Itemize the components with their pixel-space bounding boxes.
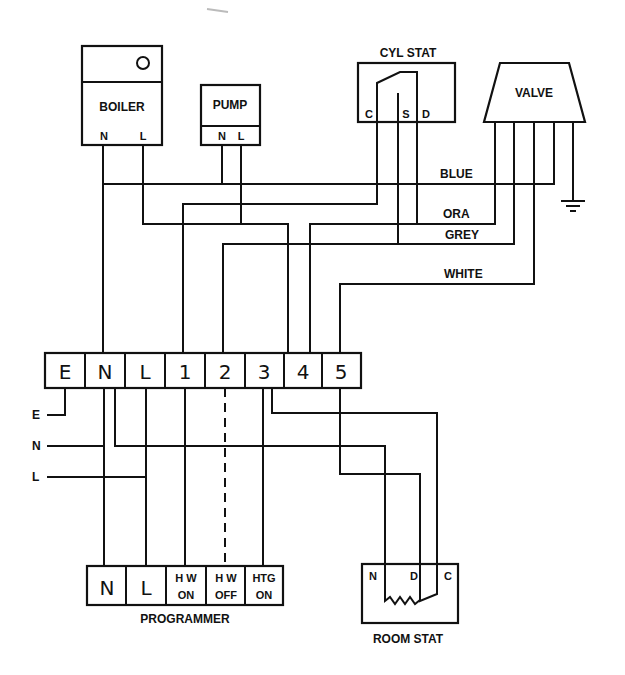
supply-label-e: E <box>32 408 40 422</box>
boiler: BOILER N L <box>82 46 162 145</box>
cyl-stat-terminal-c: C <box>365 108 373 120</box>
terminal-n: N <box>98 360 113 384</box>
programmer-hw-on-line1: H W <box>175 572 197 584</box>
room-stat-label: ROOM STAT <box>373 632 444 646</box>
programmer-terminal-n: N <box>100 576 115 600</box>
cyl-stat-label: CYL STAT <box>380 46 437 60</box>
boiler-terminal-l: L <box>140 130 147 142</box>
terminal-1: 1 <box>179 360 192 384</box>
programmer: N L H W ON H W OFF HTG ON PROGRAMMER <box>87 566 283 626</box>
pump: PUMP N L <box>201 85 260 145</box>
room-stat-terminal-c: C <box>444 570 452 582</box>
upper-wiring <box>103 122 554 353</box>
room-stat-terminal-d: D <box>410 570 418 582</box>
terminal-3: 3 <box>258 360 271 384</box>
wire-label-blue: BLUE <box>440 167 473 181</box>
room-thermostat: N D C ROOM STAT <box>362 564 458 646</box>
boiler-box <box>82 46 162 145</box>
lower-wiring <box>47 388 437 566</box>
programmer-label: PROGRAMMER <box>140 612 230 626</box>
wire-label-ora: ORA <box>443 207 470 221</box>
terminal-strip: E N L 1 2 3 4 5 <box>45 353 361 388</box>
boiler-label: BOILER <box>99 100 145 114</box>
wiring-diagram: BOILER N L PUMP N L CYL STAT C S D VALVE <box>0 0 625 675</box>
cylinder-thermostat: CYL STAT C S D <box>358 46 455 122</box>
supply-label-l: L <box>32 470 39 484</box>
cyl-stat-terminal-s: S <box>402 108 409 120</box>
programmer-hw-off-line1: H W <box>215 572 237 584</box>
valve: VALVE <box>484 63 585 122</box>
programmer-terminal-l: L <box>140 576 152 600</box>
terminal-e: E <box>59 360 72 384</box>
valve-label: VALVE <box>515 86 553 100</box>
wire-label-white: WHITE <box>444 267 483 281</box>
pump-terminal-n: N <box>218 130 226 142</box>
terminal-5: 5 <box>335 360 348 384</box>
terminal-2: 2 <box>219 360 232 384</box>
pump-terminal-l: L <box>238 130 245 142</box>
programmer-htg-on-line2: ON <box>256 589 273 601</box>
boiler-terminal-n: N <box>100 130 108 142</box>
terminal-4: 4 <box>297 360 310 384</box>
wire-label-grey: GREY <box>445 228 479 242</box>
programmer-hw-off-line2: OFF <box>215 589 237 601</box>
earth-icon <box>561 122 585 211</box>
supply-label-n: N <box>32 439 41 453</box>
cyl-stat-terminal-d: D <box>422 108 430 120</box>
pump-box <box>201 85 260 145</box>
room-stat-terminal-n: N <box>369 570 377 582</box>
programmer-htg-on-line1: HTG <box>252 572 275 584</box>
terminal-l: L <box>139 360 151 384</box>
scan-mark <box>207 9 228 12</box>
programmer-hw-on-line2: ON <box>178 589 195 601</box>
pump-label: PUMP <box>213 98 248 112</box>
